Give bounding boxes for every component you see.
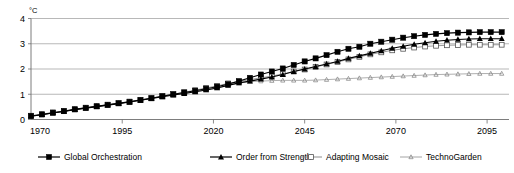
y-axis-unit-label: °C (29, 6, 38, 15)
y-tick-label-3: 3 (20, 39, 25, 49)
y-tick-label-1: 1 (20, 90, 25, 100)
legend-marker-filled-square (46, 154, 51, 159)
legend-label-technogarden[interactable]: TechnoGarden (426, 152, 482, 162)
series-line-global-orchestration (31, 32, 502, 116)
x-tick-label-2020: 2020 (203, 126, 223, 136)
x-tick-label-1995: 1995 (112, 126, 132, 136)
temperature-projection-chart: °C01234197019952020204520702095Global Or… (0, 0, 514, 173)
series-markers-adapting-mosaic (29, 42, 505, 118)
series-line-technogarden (31, 74, 502, 117)
series-line-adapting-mosaic (31, 45, 502, 116)
y-tick-label-4: 4 (20, 14, 25, 24)
chart-canvas: °C01234197019952020204520702095Global Or… (0, 0, 514, 173)
legend-marker-open-square (309, 155, 314, 160)
x-tick-label-2095: 2095 (477, 126, 497, 136)
x-tick-label-2045: 2045 (295, 126, 315, 136)
legend-label-global-orchestration[interactable]: Global Orchestration (64, 152, 142, 162)
legend-label-adapting-mosaic[interactable]: Adapting Mosaic (326, 152, 390, 162)
x-tick-label-2070: 2070 (386, 126, 406, 136)
y-tick-label-2: 2 (20, 64, 25, 74)
series-line-order-from-strength (31, 39, 502, 117)
y-tick-label-0: 0 (20, 115, 25, 125)
series-markers-global-orchestration (28, 30, 504, 119)
x-tick-label-1970: 1970 (30, 126, 50, 136)
